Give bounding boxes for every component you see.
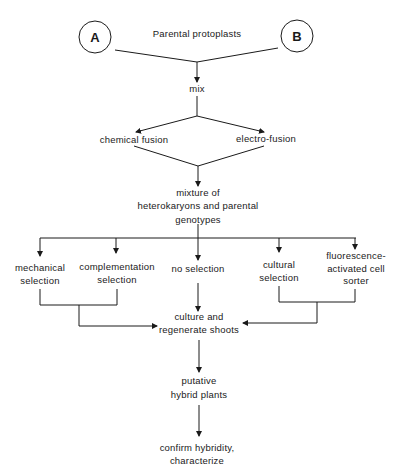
putative-line1: putative (171, 375, 227, 388)
confirm-line2: characterize (160, 455, 235, 468)
no-selection-line1: no selection (171, 263, 224, 276)
parental-protoplasts-label: Parental protoplasts (153, 28, 242, 41)
facs-line2: activated cell (326, 263, 386, 276)
mix-label: mix (189, 83, 204, 96)
facs-line1: fluorescence- (326, 250, 386, 263)
putative-line2: hybrid plants (171, 389, 227, 402)
mixture-node: mixture of heterokaryons and parental ge… (138, 187, 259, 226)
culture-node: culture and regenerate shoots (159, 311, 239, 336)
electro-fusion-label: electro-fusion (236, 133, 296, 146)
mechanical-selection-node: mechanical selection (15, 262, 65, 287)
mechanical-line1: mechanical (15, 262, 65, 275)
mixture-line2: heterokaryons and parental (138, 200, 259, 213)
facs-node: fluorescence- activated cell sorter (326, 250, 386, 288)
parent-b-label: B (292, 29, 301, 44)
complementation-selection-node: complementation selection (79, 261, 154, 286)
mixture-line1: mixture of (138, 187, 259, 200)
complementation-line2: selection (79, 274, 154, 287)
cultural-selection-node: cultural selection (259, 259, 298, 284)
confirm-hybridity-node: confirm hybridity, characterize (160, 442, 235, 467)
mechanical-line2: selection (15, 275, 65, 288)
chemical-fusion-label: chemical fusion (100, 134, 168, 147)
flowchart-canvas: A B Parental protoplasts mix chemical fu… (0, 0, 401, 476)
culture-line1: culture and (159, 311, 239, 324)
cultural-line1: cultural (259, 259, 298, 272)
connector-lines (0, 0, 401, 476)
culture-line2: regenerate shoots (159, 324, 239, 337)
no-selection-node: no selection (171, 263, 224, 276)
cultural-line2: selection (259, 272, 298, 285)
complementation-line1: complementation (79, 261, 154, 274)
facs-line3: sorter (326, 275, 386, 288)
mixture-line3: genotypes (138, 214, 259, 227)
parent-a-label: A (90, 30, 99, 45)
putative-hybrid-node: putative hybrid plants (171, 375, 227, 401)
confirm-line1: confirm hybridity, (160, 442, 235, 455)
